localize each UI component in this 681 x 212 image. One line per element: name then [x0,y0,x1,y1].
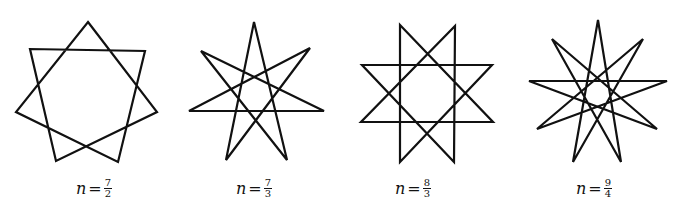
star-9-4-icon [529,20,667,162]
label-star-7-2: n = 72 [76,178,112,199]
fraction: 72 [104,178,112,199]
star-8-3-icon [361,25,493,162]
label-star-8-3: n = 83 [395,178,431,199]
star-7-3-icon [189,22,324,160]
star-7-2-icon [16,22,157,162]
fraction: 94 [604,178,612,199]
label-star-7-3: n = 73 [236,178,272,199]
label-star-9-4: n = 94 [576,178,612,199]
fraction: 83 [423,178,431,199]
fraction: 73 [264,178,272,199]
